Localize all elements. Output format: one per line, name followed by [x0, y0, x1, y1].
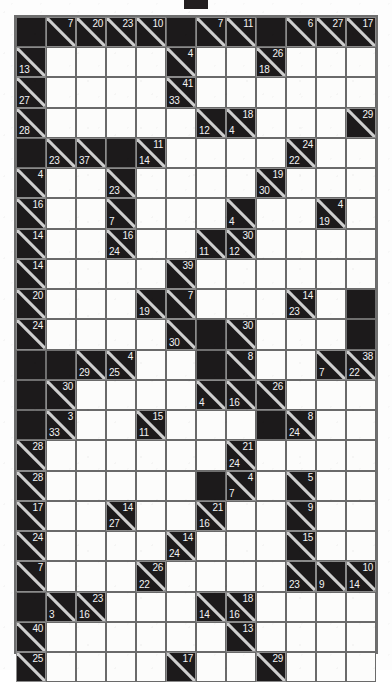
entry-cell[interactable] [106, 410, 136, 440]
entry-cell[interactable] [286, 108, 316, 138]
entry-cell[interactable] [76, 531, 106, 561]
entry-cell[interactable] [46, 108, 76, 138]
entry-cell[interactable] [286, 259, 316, 289]
entry-cell[interactable] [226, 501, 256, 531]
entry-cell[interactable] [316, 440, 346, 470]
entry-cell[interactable] [286, 198, 316, 228]
entry-cell[interactable] [346, 471, 376, 501]
entry-cell[interactable] [346, 198, 376, 228]
entry-cell[interactable] [196, 622, 226, 652]
entry-cell[interactable] [46, 471, 76, 501]
entry-cell[interactable] [316, 319, 346, 349]
entry-cell[interactable] [256, 471, 286, 501]
entry-cell[interactable] [196, 198, 226, 228]
entry-cell[interactable] [136, 198, 166, 228]
entry-cell[interactable] [196, 47, 226, 77]
entry-cell[interactable] [136, 380, 166, 410]
kakuro-grid-container[interactable]: 7202310711627171342618274133281218429233… [14, 15, 378, 654]
entry-cell[interactable] [346, 138, 376, 168]
entry-cell[interactable] [226, 168, 256, 198]
entry-cell[interactable] [316, 168, 346, 198]
entry-cell[interactable] [256, 229, 286, 259]
entry-cell[interactable] [166, 501, 196, 531]
entry-cell[interactable] [46, 47, 76, 77]
entry-cell[interactable] [316, 77, 346, 107]
entry-cell[interactable] [76, 380, 106, 410]
entry-cell[interactable] [76, 259, 106, 289]
entry-cell[interactable] [46, 561, 76, 591]
entry-cell[interactable] [76, 168, 106, 198]
entry-cell[interactable] [106, 561, 136, 591]
entry-cell[interactable] [226, 77, 256, 107]
entry-cell[interactable] [196, 138, 226, 168]
entry-cell[interactable] [196, 561, 226, 591]
entry-cell[interactable] [256, 622, 286, 652]
entry-cell[interactable] [136, 108, 166, 138]
entry-cell[interactable] [136, 229, 166, 259]
entry-cell[interactable] [316, 47, 346, 77]
entry-cell[interactable] [46, 652, 76, 682]
entry-cell[interactable] [136, 471, 166, 501]
entry-cell[interactable] [226, 47, 256, 77]
entry-cell[interactable] [136, 319, 166, 349]
entry-cell[interactable] [256, 319, 286, 349]
entry-cell[interactable] [196, 652, 226, 682]
entry-cell[interactable] [166, 198, 196, 228]
entry-cell[interactable] [136, 531, 166, 561]
entry-cell[interactable] [106, 592, 136, 622]
entry-cell[interactable] [316, 410, 346, 440]
entry-cell[interactable] [316, 289, 346, 319]
entry-cell[interactable] [256, 440, 286, 470]
entry-cell[interactable] [286, 622, 316, 652]
entry-cell[interactable] [316, 259, 346, 289]
entry-cell[interactable] [106, 652, 136, 682]
entry-cell[interactable] [286, 592, 316, 622]
entry-cell[interactable] [166, 229, 196, 259]
entry-cell[interactable] [196, 531, 226, 561]
entry-cell[interactable] [136, 259, 166, 289]
entry-cell[interactable] [346, 592, 376, 622]
entry-cell[interactable] [346, 622, 376, 652]
entry-cell[interactable] [46, 229, 76, 259]
entry-cell[interactable] [256, 108, 286, 138]
entry-cell[interactable] [136, 168, 166, 198]
entry-cell[interactable] [76, 108, 106, 138]
entry-cell[interactable] [136, 592, 166, 622]
entry-cell[interactable] [346, 440, 376, 470]
entry-cell[interactable] [256, 531, 286, 561]
entry-cell[interactable] [166, 561, 196, 591]
entry-cell[interactable] [196, 77, 226, 107]
entry-cell[interactable] [106, 471, 136, 501]
entry-cell[interactable] [256, 592, 286, 622]
entry-cell[interactable] [256, 501, 286, 531]
entry-cell[interactable] [286, 350, 316, 380]
entry-cell[interactable] [76, 47, 106, 77]
entry-cell[interactable] [166, 622, 196, 652]
entry-cell[interactable] [166, 410, 196, 440]
entry-cell[interactable] [316, 622, 346, 652]
entry-cell[interactable] [76, 471, 106, 501]
entry-cell[interactable] [346, 652, 376, 682]
entry-cell[interactable] [256, 561, 286, 591]
entry-cell[interactable] [286, 380, 316, 410]
entry-cell[interactable] [286, 652, 316, 682]
entry-cell[interactable] [316, 138, 346, 168]
entry-cell[interactable] [76, 410, 106, 440]
entry-cell[interactable] [346, 380, 376, 410]
entry-cell[interactable] [226, 531, 256, 561]
entry-cell[interactable] [46, 622, 76, 652]
entry-cell[interactable] [136, 350, 166, 380]
entry-cell[interactable] [76, 440, 106, 470]
entry-cell[interactable] [286, 77, 316, 107]
entry-cell[interactable] [346, 501, 376, 531]
entry-cell[interactable] [346, 47, 376, 77]
entry-cell[interactable] [166, 108, 196, 138]
entry-cell[interactable] [316, 229, 346, 259]
entry-cell[interactable] [316, 501, 346, 531]
entry-cell[interactable] [256, 289, 286, 319]
entry-cell[interactable] [286, 319, 316, 349]
entry-cell[interactable] [46, 77, 76, 107]
entry-cell[interactable] [196, 289, 226, 319]
entry-cell[interactable] [166, 380, 196, 410]
entry-cell[interactable] [346, 259, 376, 289]
